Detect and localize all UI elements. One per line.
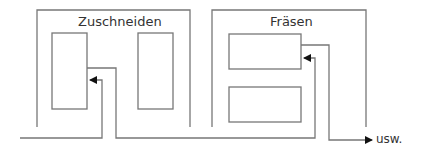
station-title-fraesen: Fräsen bbox=[270, 15, 313, 28]
continuation-label: usw. bbox=[376, 133, 402, 145]
flow-output-path bbox=[301, 45, 372, 140]
station-title-zuschneiden: Zuschneiden bbox=[78, 15, 162, 28]
machine-fraesen-2 bbox=[229, 87, 301, 122]
machine-zuschneiden-1 bbox=[52, 33, 87, 109]
flow-transfer-path bbox=[87, 58, 315, 138]
machine-fraesen-1 bbox=[229, 34, 301, 69]
material-flow-diagram bbox=[0, 0, 424, 151]
machine-zuschneiden-2 bbox=[138, 33, 173, 109]
